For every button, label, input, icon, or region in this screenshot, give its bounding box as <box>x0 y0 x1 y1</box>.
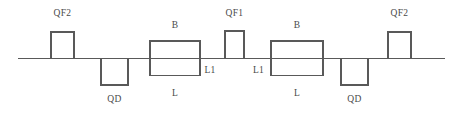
element-label-qf1: QF1 <box>226 9 244 19</box>
magnet-box-qd-right <box>341 59 368 86</box>
element-label-b-right: B <box>294 21 301 31</box>
element-label-qf2-left: QF2 <box>54 9 72 19</box>
element-label-qd-right: QD <box>347 95 361 105</box>
element-label-b-left: B <box>172 21 179 31</box>
magnet-box-qf1-center <box>225 31 244 59</box>
lattice-cell-diagram: QF2 QD B QF1 B QD QF2 L L1 L1 L <box>0 0 466 120</box>
drift-label-l-left: L <box>172 89 178 99</box>
drift-label-l1-right: L1 <box>253 66 264 76</box>
magnet-box-qf2-left <box>51 32 74 59</box>
magnet-elements-group <box>51 31 411 85</box>
magnet-box-qd-left <box>101 59 128 86</box>
element-label-qf2-right: QF2 <box>391 9 409 19</box>
drift-label-l-right: L <box>294 89 300 99</box>
magnet-box-qf2-right <box>388 32 411 59</box>
drift-label-l1-left: L1 <box>204 66 215 76</box>
element-label-qd-left: QD <box>107 95 121 105</box>
